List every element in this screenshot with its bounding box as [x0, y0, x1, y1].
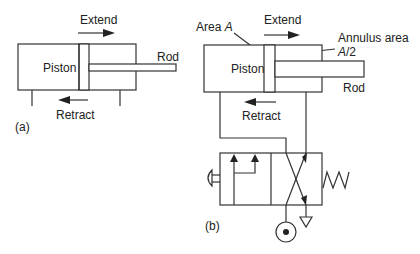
- tank-icon: [300, 217, 312, 227]
- extend-label-a: Extend: [80, 13, 117, 27]
- piston-b: [264, 45, 275, 92]
- area-label-b: Area A: [196, 20, 233, 34]
- push-button-icon: [208, 170, 220, 186]
- retract-arrow-icon-a: [58, 96, 88, 104]
- label-a: (a): [15, 120, 30, 134]
- spring-icon: [323, 172, 349, 188]
- extend-arrow-icon-b: [264, 31, 300, 39]
- pump-icon: [276, 222, 296, 242]
- retract-label-a: Retract: [56, 108, 95, 122]
- retract-label-b: Retract: [242, 109, 281, 123]
- rod-a: [89, 64, 176, 71]
- rod-label-a: Rod: [157, 50, 179, 64]
- extend-arrow-icon-a: [78, 29, 115, 37]
- hydraulic-cylinder-diagram: Extend Piston Rod Retract (a) Area A Ext…: [0, 0, 420, 254]
- piston-a: [79, 44, 89, 90]
- diagram-b: Area A Extend Annulus area A/2 Piston Ro…: [196, 13, 409, 242]
- retract-arrow-icon-b: [244, 98, 276, 106]
- rod-label-b: Rod: [343, 81, 365, 95]
- annulus-label: Annulus area: [338, 31, 409, 45]
- label-b: (b): [205, 219, 220, 233]
- piston-label-a: Piston: [43, 61, 76, 75]
- directional-control-valve: [208, 153, 349, 205]
- piston-label-b: Piston: [231, 62, 264, 76]
- annulus-value: A/2: [337, 45, 356, 59]
- extend-label-b: Extend: [264, 13, 301, 27]
- diagram-a: Extend Piston Rod Retract (a): [15, 13, 179, 134]
- rod-b: [275, 61, 364, 77]
